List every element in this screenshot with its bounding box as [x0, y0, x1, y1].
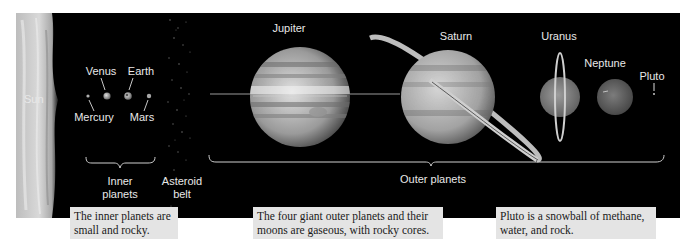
inner-planets-label-line1: Inner: [107, 175, 132, 187]
caption-inner-planets: The inner planets are small and rocky.: [70, 207, 178, 239]
caption-inner-line1: The inner planets are: [74, 209, 174, 223]
saturn-label: Saturn: [440, 30, 472, 42]
mercury-icon: [86, 94, 89, 97]
earth-label: Earth: [128, 65, 154, 77]
asteroid-belt-label-line1: Asteroid: [162, 175, 202, 187]
neptune-label: Neptune: [584, 57, 626, 69]
venus-label: Venus: [86, 65, 117, 77]
mercury-label: Mercury: [74, 111, 114, 123]
earth-icon: [124, 92, 132, 100]
uranus-label: Uranus: [541, 30, 576, 42]
solar-system-figure: Sun Venus Earth Mercury Mars Jupiter Sat…: [0, 0, 693, 247]
mars-icon: [147, 94, 151, 98]
neptune-icon: [597, 79, 633, 115]
pluto-label: Pluto: [639, 70, 664, 82]
caption-pluto: Pluto is a snowball of methane, water, a…: [496, 207, 656, 239]
sun-icon: [16, 13, 58, 218]
caption-pluto-line2: water, and rock.: [500, 223, 652, 237]
caption-outer-planets: The four giant outer planets and their m…: [253, 207, 443, 239]
jupiter-label: Jupiter: [272, 22, 305, 34]
caption-outer-line1: The four giant outer planets and their: [257, 209, 439, 223]
mars-label: Mars: [130, 111, 154, 123]
caption-pluto-line1: Pluto is a snowball of methane,: [500, 209, 652, 223]
outer-planets-label: Outer planets: [400, 173, 466, 185]
caption-inner-line2: small and rocky.: [74, 223, 174, 237]
caption-outer-line2: moons are gaseous, with rocky cores.: [257, 223, 439, 237]
asteroid-belt-label-line2: belt: [173, 188, 191, 200]
venus-icon: [103, 92, 110, 99]
inner-planets-label-line2: planets: [102, 188, 137, 200]
sun-label: Sun: [24, 93, 44, 105]
